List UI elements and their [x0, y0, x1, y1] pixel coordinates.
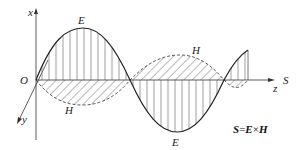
poynting-formula: S=E×H: [233, 123, 268, 135]
z-axis-label: z: [272, 82, 278, 94]
e-bottom-label: E: [171, 136, 179, 148]
y-axis-label: y: [21, 113, 27, 125]
h-bottom-label: H: [64, 104, 74, 116]
wave-diagram: x O y z S E E H H S=E×H: [0, 0, 299, 150]
x-axis-label: x: [27, 6, 33, 18]
h-top-label: H: [191, 44, 201, 56]
origin-label: O: [20, 74, 28, 86]
e-top-label: E: [77, 14, 85, 26]
x-axis: [34, 8, 38, 140]
poynting-label: S: [283, 74, 289, 86]
